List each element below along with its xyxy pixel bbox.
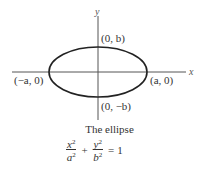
vertex-right-label: (a, 0): [150, 74, 174, 87]
vertex-top-label: (0, b): [101, 32, 125, 45]
y-axis-label: y: [94, 6, 100, 17]
vertex-bottom-label: (0, −b): [101, 100, 131, 113]
x-axis-label: x: [188, 66, 194, 77]
caption: The ellipse: [8, 123, 203, 135]
equation-rhs: 1: [117, 144, 123, 156]
fraction-y: y2 b2: [93, 137, 103, 162]
fraction-x: x2 a2: [66, 137, 76, 162]
ellipse-equation: x2 a2 + y2 b2 = 1: [64, 137, 123, 162]
equals-sign: =: [108, 144, 114, 156]
plus-sign: +: [81, 144, 87, 156]
vertex-left-label: (−a, 0): [14, 74, 44, 87]
